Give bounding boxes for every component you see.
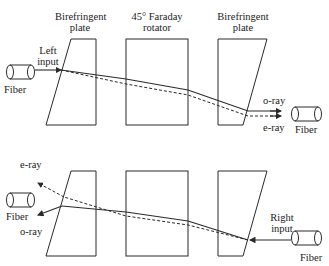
label-line: rotator	[126, 22, 188, 33]
label-line: Birefringent	[215, 11, 271, 22]
label-line: plate	[215, 22, 271, 33]
faraday-rotator	[126, 39, 188, 125]
label-line: 45° Faraday	[126, 11, 188, 22]
plate-left-label: Birefringent plate	[55, 11, 105, 33]
e-ray-path	[61, 70, 278, 116]
label-line: Left	[34, 45, 62, 56]
o-ray-label: o-ray	[20, 226, 42, 237]
label-line: input	[34, 56, 62, 67]
birefringent-plate-left	[46, 171, 96, 256]
fiber-label: Fiber	[4, 84, 26, 95]
label-line: Right	[267, 212, 297, 223]
left-input-label: Left input	[34, 45, 62, 67]
e-ray-path	[64, 197, 248, 240]
e-ray-label: e-ray	[263, 122, 285, 133]
fiber-icon	[7, 193, 35, 207]
right-input-label: Right input	[267, 212, 297, 234]
fiber-label: Fiber	[295, 124, 317, 135]
label-line: input	[267, 223, 297, 234]
fiber-label: Fiber	[300, 252, 322, 263]
fiber-icon	[292, 107, 322, 121]
rotator-label: 45° Faraday rotator	[126, 11, 188, 33]
birefringent-plate-right	[218, 171, 267, 256]
o-ray-path	[62, 206, 248, 240]
label-line: plate	[55, 22, 105, 33]
optical-isolator-diagram: Birefringent plate 45° Faraday rotator B…	[0, 0, 329, 266]
fiber-label: Fiber	[6, 211, 28, 222]
label-line: Birefringent	[55, 11, 105, 22]
birefringent-plate-right	[218, 39, 267, 125]
e-ray-label: e-ray	[20, 159, 42, 170]
o-ray-label: o-ray	[263, 95, 285, 106]
fiber-icon	[7, 65, 35, 79]
o-ray-path	[61, 70, 278, 111]
plate-right-label: Birefringent plate	[215, 11, 271, 33]
